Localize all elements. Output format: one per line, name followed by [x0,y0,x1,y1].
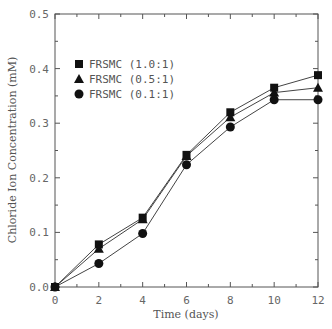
series-line [55,100,318,287]
x-tick-label: 10 [268,294,281,307]
series-square [55,75,318,287]
legend-item: FRSMC (0.1:1) [75,88,176,101]
plot-frame [55,14,318,287]
series-triangle [55,88,318,287]
series-line [55,75,318,287]
triangle-marker [74,74,84,83]
x-tick-label: 0 [52,294,59,307]
x-tick-label: 2 [96,294,103,307]
y-tick-label: 0.3 [29,117,49,130]
axis-ticks [55,14,318,287]
circle-marker [75,90,84,99]
y-axis-title: Chloride Ion Concentration (mM) [6,57,19,244]
square-marker [314,71,322,79]
circle-marker [51,283,60,292]
y-tick-label: 0.1 [29,226,49,239]
legend: FRSMC (1.0:1)FRSMC (0.5:1)FRSMC (0.1:1) [74,58,175,101]
x-tick-labels: 024681012 [52,294,325,307]
circle-marker [226,123,235,132]
data-series [50,71,323,291]
legend-label: FRSMC (0.5:1) [89,73,175,86]
markers-square [51,71,322,291]
legend-label: FRSMC (0.1:1) [89,88,175,101]
circle-marker [270,95,279,104]
square-marker [75,60,83,68]
x-axis-title: Time (days) [153,308,218,321]
markers-triangle [50,83,323,291]
series-line [55,88,318,287]
x-tick-label: 8 [227,294,234,307]
circle-marker [182,160,191,169]
x-tick-label: 12 [311,294,324,307]
y-tick-labels: 0.00.10.20.30.40.5 [29,8,49,294]
legend-item: FRSMC (0.5:1) [74,73,175,86]
y-tick-label: 0.5 [29,8,49,21]
triangle-marker [313,83,323,92]
y-tick-label: 0.0 [29,281,49,294]
circle-marker [138,229,147,238]
series-circle [55,100,318,287]
y-tick-label: 0.2 [29,172,49,185]
legend-label: FRSMC (1.0:1) [89,58,175,71]
circle-marker [94,259,103,268]
x-tick-label: 4 [139,294,146,307]
x-tick-label: 6 [183,294,190,307]
markers-circle [51,95,323,291]
circle-marker [314,95,323,104]
legend-item: FRSMC (1.0:1) [75,58,175,71]
line-chart: 024681012 0.00.10.20.30.40.5 Time (days)… [0,0,332,329]
y-tick-label: 0.4 [29,63,49,76]
